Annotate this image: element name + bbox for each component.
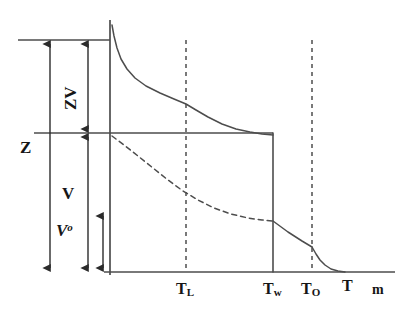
- axes: [104, 20, 395, 275]
- diagram-canvas: Z ZV V Vo TL Tw TO T m: [0, 0, 407, 315]
- tick-label-T: T: [342, 278, 353, 294]
- tick-label-TO-sub: O: [312, 286, 321, 298]
- measure-label-v: V: [62, 185, 74, 202]
- tick-label-TL-sub: L: [187, 286, 194, 298]
- diagram-vector-layer: [0, 0, 407, 315]
- tick-label-Tw-base: T: [263, 280, 274, 297]
- tick-label-TL-base: T: [176, 280, 187, 297]
- axis-unit-label-m: m: [372, 283, 384, 297]
- measure-label-v-naught-base: V: [56, 221, 67, 240]
- measure-label-zv: ZV: [62, 86, 79, 110]
- tick-label-TL: TL: [176, 281, 194, 298]
- tail-solid-segment: [273, 221, 312, 247]
- data-curves: [112, 25, 345, 272]
- tail-decay-curve: [312, 247, 345, 272]
- measure-label-v-naught: Vo: [56, 222, 73, 239]
- upper-solid-curve: [112, 25, 273, 135]
- tick-label-Tw-sub: w: [274, 286, 282, 298]
- tick-label-TO: TO: [301, 281, 320, 298]
- tick-label-TO-base: T: [301, 280, 312, 297]
- lower-dashed-curve: [112, 136, 273, 221]
- measure-label-z: Z: [20, 139, 31, 156]
- tick-label-Tw: Tw: [263, 281, 282, 298]
- measure-label-v-naught-superscript: o: [67, 221, 73, 233]
